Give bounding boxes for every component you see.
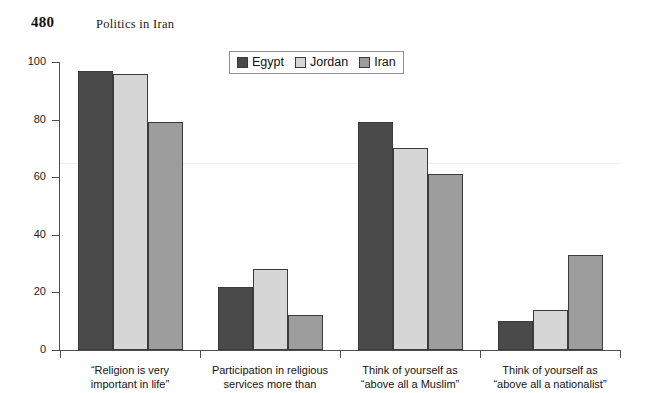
- plot-area: [60, 62, 620, 350]
- category-label-line: “Religion is very: [60, 363, 200, 377]
- bar-jordan[interactable]: [533, 310, 568, 350]
- y-axis-tick-label: 60: [6, 171, 46, 182]
- bar-jordan[interactable]: [253, 269, 288, 350]
- bar-group: [218, 62, 323, 350]
- y-axis-tick: [52, 62, 60, 63]
- category-label: Think of yourself as“above all a nationa…: [480, 363, 620, 391]
- bar-egypt[interactable]: [498, 321, 533, 350]
- legend-item-egypt[interactable]: Egypt: [237, 56, 284, 69]
- legend-item-jordan[interactable]: Jordan: [295, 56, 348, 69]
- y-axis-tick: [52, 350, 60, 351]
- y-axis-tick: [52, 120, 60, 121]
- bar-group: [78, 62, 183, 350]
- category-label-line: Think of yourself as: [340, 363, 480, 377]
- bar-egypt[interactable]: [358, 122, 393, 350]
- x-axis-tick: [60, 350, 61, 358]
- bar-chart: 020406080100 “Religion is veryimportant …: [0, 0, 647, 393]
- category-label-line: Participation in religious: [200, 363, 340, 377]
- bar-group: [498, 62, 603, 350]
- x-axis-tick: [340, 350, 341, 358]
- legend-swatch-icon: [237, 57, 248, 68]
- category-label-line: “above all a Muslim”: [340, 377, 480, 391]
- legend-swatch-icon: [295, 57, 306, 68]
- legend-label: Jordan: [310, 56, 348, 69]
- bar-iran[interactable]: [148, 122, 183, 350]
- bar-iran[interactable]: [288, 315, 323, 350]
- legend-swatch-icon: [359, 57, 370, 68]
- bar-egypt[interactable]: [218, 287, 253, 350]
- legend-label: Egypt: [252, 56, 284, 69]
- bar-jordan[interactable]: [393, 148, 428, 350]
- legend-item-iran[interactable]: Iran: [359, 56, 396, 69]
- bar-egypt[interactable]: [78, 71, 113, 350]
- legend-label: Iran: [374, 56, 396, 69]
- y-axis-tick: [52, 235, 60, 236]
- x-axis-tick: [480, 350, 481, 358]
- y-axis-tick-label: 80: [6, 114, 46, 125]
- bar-iran[interactable]: [568, 255, 603, 350]
- category-label-line: “above all a nationalist”: [480, 377, 620, 391]
- y-axis-tick: [52, 177, 60, 178]
- bar-jordan[interactable]: [113, 74, 148, 350]
- bar-iran[interactable]: [428, 174, 463, 350]
- category-label: Participation in religiousservices more …: [200, 363, 340, 391]
- chart-legend: EgyptJordanIran: [229, 51, 404, 74]
- category-label: “Religion is veryimportant in life”: [60, 363, 200, 391]
- bar-group: [358, 62, 463, 350]
- y-axis-tick-label: 20: [6, 286, 46, 297]
- y-axis-tick-label: 0: [6, 344, 46, 355]
- y-axis-tick: [52, 292, 60, 293]
- y-axis-tick-label: 40: [6, 229, 46, 240]
- category-label-line: important in life”: [60, 377, 200, 391]
- x-axis-tick: [620, 350, 621, 358]
- y-axis-tick-label: 100: [6, 56, 46, 67]
- category-label-line: services more than: [200, 377, 340, 391]
- category-label: Think of yourself as“above all a Muslim”: [340, 363, 480, 391]
- category-label-line: Think of yourself as: [480, 363, 620, 377]
- x-axis-tick: [200, 350, 201, 358]
